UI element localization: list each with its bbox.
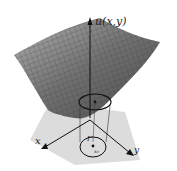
point-label: x₀ bbox=[94, 149, 99, 154]
domain-point bbox=[92, 145, 95, 148]
y-axis-label: y bbox=[134, 146, 139, 155]
u-axis-label: u(x,y) bbox=[95, 16, 127, 27]
x-axis-label: x bbox=[35, 136, 41, 146]
boundary-label: Γ bbox=[87, 136, 92, 143]
surface-diagram bbox=[0, 0, 177, 171]
